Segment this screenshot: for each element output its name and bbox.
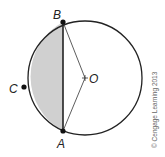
radius-ob [63, 22, 85, 78]
point-c [21, 84, 26, 89]
label-a: A [56, 137, 65, 151]
label-c: C [9, 82, 18, 96]
circle-segment-diagram: B A C O © Cengage Learning 2013 [0, 0, 165, 157]
point-b [60, 19, 65, 24]
copyright-text: © Cengage Learning 2013 [151, 71, 159, 148]
radius-oa [63, 78, 85, 131]
shaded-segment [31, 22, 63, 131]
point-a [60, 128, 65, 133]
label-o: O [89, 72, 98, 86]
label-b: B [53, 8, 61, 22]
